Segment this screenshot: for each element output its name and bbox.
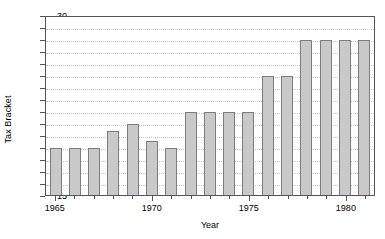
bar [204, 112, 216, 196]
x-tick-mark [346, 196, 347, 201]
x-axis-title: Year [45, 220, 375, 230]
bar [127, 124, 139, 196]
x-tick-label: 1975 [229, 203, 269, 214]
plot-area [45, 16, 375, 196]
x-tick-mark-minor [365, 196, 366, 199]
bar [146, 141, 158, 196]
bar [242, 112, 254, 196]
x-tick-mark [249, 196, 250, 201]
x-tick-label: 1980 [326, 203, 366, 214]
x-tick-mark-minor [288, 196, 289, 199]
bar [320, 40, 332, 196]
bar [281, 76, 293, 196]
x-tick-mark-minor [229, 196, 230, 199]
x-tick-mark-minor [113, 196, 114, 199]
x-tick-mark-minor [307, 196, 308, 199]
bar [223, 112, 235, 196]
bar [300, 40, 312, 196]
x-tick-mark-minor [191, 196, 192, 199]
x-tick-mark-minor [268, 196, 269, 199]
bar-chart: Tax Bracket 1516171819202122232425262728… [0, 0, 385, 239]
x-tick-mark-minor [171, 196, 172, 199]
bar [339, 40, 351, 196]
y-axis-title: Tax Bracket [0, 0, 16, 239]
bar [358, 40, 370, 196]
x-tick-label: 1970 [132, 203, 172, 214]
bar [185, 112, 197, 196]
bar [69, 148, 81, 196]
bar [262, 76, 274, 196]
x-tick-mark [55, 196, 56, 201]
y-tick-mark [40, 196, 45, 197]
x-tick-mark-minor [74, 196, 75, 199]
bar [165, 148, 177, 196]
x-tick-mark-minor [326, 196, 327, 199]
bar-series [46, 17, 374, 195]
x-tick-mark-minor [210, 196, 211, 199]
x-tick-mark [152, 196, 153, 201]
x-tick-label: 1965 [35, 203, 75, 214]
x-tick-mark-minor [94, 196, 95, 199]
bar [107, 131, 119, 196]
bar [50, 148, 62, 196]
x-tick-mark-minor [132, 196, 133, 199]
bar [88, 148, 100, 196]
